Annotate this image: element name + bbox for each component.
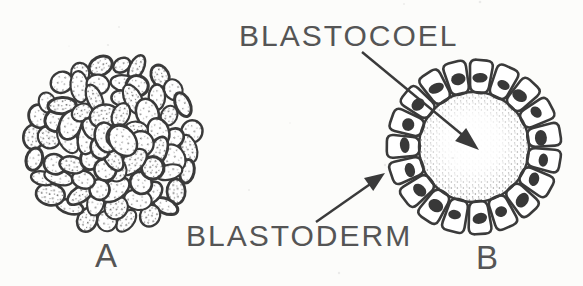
- blastoderm-arrow: [316, 173, 385, 222]
- scan-speckle: [448, 187, 451, 190]
- panel-a-label: A: [95, 237, 117, 274]
- scan-speckle: [96, 125, 98, 127]
- scan-speckle: [479, 1, 482, 4]
- scan-speckle: [384, 164, 386, 166]
- scan-speckle: [248, 189, 250, 191]
- scan-speckle: [107, 44, 109, 46]
- scan-speckle: [106, 91, 108, 93]
- blastoderm-arrow-shaft: [316, 180, 376, 222]
- scan-speckle: [49, 136, 52, 139]
- blastocoel-label: BLASTOCOEL: [239, 19, 459, 52]
- blastomere-cell: [23, 146, 45, 172]
- scan-speckle: [68, 45, 69, 46]
- scan-speckle: [118, 26, 120, 28]
- embryology-diagram: BLASTOCOEL BLASTODERM A B: [0, 0, 583, 286]
- blastoderm-label: BLASTODERM: [186, 219, 412, 252]
- panel-b-label: B: [476, 239, 498, 276]
- scan-speckle: [452, 157, 454, 159]
- scan-speckle: [289, 122, 290, 123]
- scan-speckle: [338, 272, 340, 274]
- scan-speckle: [403, 3, 405, 5]
- diagram-canvas: BLASTOCOEL BLASTODERM A B: [0, 0, 583, 286]
- blastoderm-arrowhead-icon: [364, 173, 385, 191]
- morula-figure-a: [22, 52, 205, 235]
